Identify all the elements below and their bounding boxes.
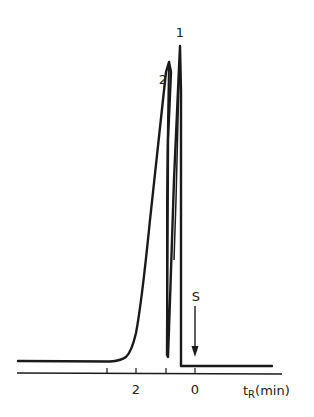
- chromatogram-figure: 2 0 tR(min) 1 2 S: [0, 0, 314, 417]
- peak-2-label: 2: [159, 72, 167, 87]
- x-tick-label-2: 2: [132, 382, 140, 397]
- peak-1-label: 1: [176, 25, 184, 40]
- start-label: S: [192, 289, 200, 304]
- x-axis-label-unit: (min): [255, 383, 290, 398]
- x-axis-line: [17, 373, 282, 374]
- chromatogram-trace: [18, 46, 272, 366]
- start-arrow-icon: [192, 346, 199, 357]
- x-axis-label: tR(min): [243, 383, 290, 400]
- x-tick-label-0: 0: [191, 382, 199, 397]
- x-axis-label-subscript: R: [248, 389, 255, 400]
